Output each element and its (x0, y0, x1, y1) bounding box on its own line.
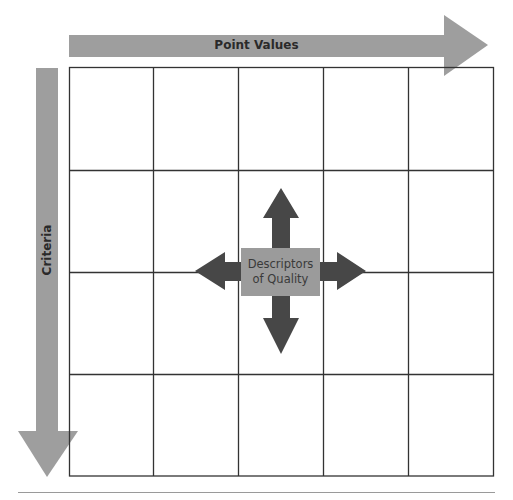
arrow-down-icon (263, 294, 299, 354)
criteria-label: Criteria (40, 225, 54, 276)
arrow-left-icon (195, 252, 243, 290)
center-box-line-1: Descriptors (241, 257, 320, 272)
point-values-label: Point Values (69, 38, 444, 52)
center-box-line-2: of Quality (241, 272, 320, 287)
descriptors-of-quality-box: Descriptors of Quality (241, 248, 320, 296)
arrow-up-icon (263, 188, 299, 250)
arrow-right-icon (318, 252, 366, 290)
